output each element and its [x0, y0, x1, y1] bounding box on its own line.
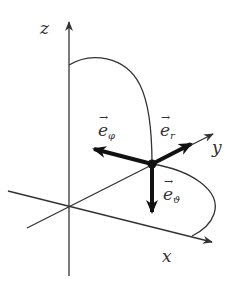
y-axis-label: y	[212, 139, 222, 156]
meridian-arc	[69, 58, 152, 164]
e-theta-label: eϑ	[163, 186, 180, 205]
e-r-base: e	[160, 122, 170, 139]
x-axis	[8, 191, 212, 242]
e-r-subscript: r	[170, 130, 175, 141]
x-axis-label: x	[162, 248, 172, 265]
e-phi-label: eφ	[98, 122, 115, 141]
vector-e-phi	[94, 149, 152, 164]
e-phi-subscript: φ	[108, 130, 115, 141]
z-axis-label: z	[40, 20, 49, 37]
e-phi-base: e	[98, 122, 108, 139]
e-r-label: er	[160, 122, 175, 141]
spherical-coordinates-diagram	[0, 0, 237, 289]
e-theta-subscript: ϑ	[173, 194, 180, 205]
azimuth-arc	[152, 164, 215, 236]
e-theta-base: e	[163, 186, 173, 203]
vector-e-r	[152, 144, 191, 164]
point-marker	[148, 160, 157, 169]
